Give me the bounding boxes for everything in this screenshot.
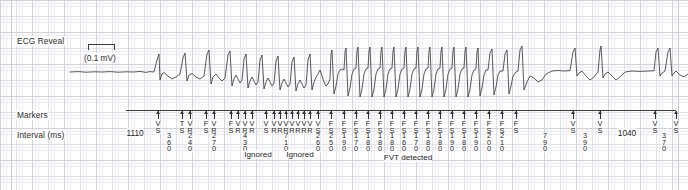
markers-row-label: Markers xyxy=(16,110,49,120)
marker-tick xyxy=(502,111,503,119)
ecg-waveform-trace xyxy=(0,24,688,104)
markers-baseline xyxy=(126,110,676,111)
marker-tick xyxy=(416,111,417,119)
marker-code: F S xyxy=(228,121,234,134)
marker-code: V S xyxy=(570,121,576,134)
marker-tick xyxy=(190,111,191,119)
marker-tick xyxy=(231,111,232,119)
annotation-note: FVT detected xyxy=(384,153,432,162)
marker-code: V S xyxy=(673,121,679,134)
marker-tick xyxy=(252,111,253,119)
marker-tick xyxy=(573,111,574,119)
marker-code: V S xyxy=(597,121,603,134)
marker-tick xyxy=(380,111,381,119)
interval-value: 1 8 0 xyxy=(377,133,383,153)
marker-tick xyxy=(182,111,183,119)
ecg-waveform-path xyxy=(70,46,688,97)
marker-code: V S xyxy=(155,121,161,134)
marker-tick xyxy=(464,111,465,119)
marker-code: F S xyxy=(203,121,209,134)
interval-value: 3 7 0 xyxy=(661,133,667,153)
interval-value: 2 7 0 xyxy=(211,133,217,153)
interval-value: 3 9 0 xyxy=(582,133,588,153)
interval-value: 1 7 0 xyxy=(353,133,359,153)
interval-value: 1 6 0 xyxy=(401,133,407,153)
marker-tick xyxy=(304,111,305,119)
interval-value: 7 9 0 xyxy=(542,133,548,153)
ecg-strip-chart: ECG Reveal Markers Interval (ms) (0.1 mV… xyxy=(0,0,688,190)
marker-tick xyxy=(310,111,311,119)
marker-tick xyxy=(344,111,345,119)
marker-tick xyxy=(245,111,246,119)
marker-tick xyxy=(280,111,281,119)
marker-tick xyxy=(331,111,332,119)
marker-tick xyxy=(266,111,267,119)
interval-value: 2 4 0 xyxy=(187,133,193,153)
marker-code: V S xyxy=(263,121,269,134)
interval-value: 1 8 0 xyxy=(461,133,467,153)
interval-value: 1110 xyxy=(126,128,143,138)
marker-tick xyxy=(158,111,159,119)
interval-value: 1 9 0 xyxy=(473,133,479,153)
marker-tick xyxy=(206,111,207,119)
marker-tick xyxy=(489,111,490,119)
marker-tick xyxy=(298,111,299,119)
marker-tick xyxy=(428,111,429,119)
marker-tick xyxy=(600,111,601,119)
marker-tick xyxy=(516,111,517,119)
marker-tick xyxy=(286,111,287,119)
marker-tick xyxy=(318,111,319,119)
marker-tick xyxy=(214,111,215,119)
marker-code: V S xyxy=(652,121,658,134)
marker-tick xyxy=(404,111,405,119)
interval-value: 3 6 0 xyxy=(166,133,172,153)
marker-code: V R xyxy=(307,121,313,134)
interval-row-label: Interval (ms) xyxy=(16,130,65,140)
annotation-note: Ignored xyxy=(286,150,313,159)
interval-value: 2 5 0 xyxy=(328,133,334,153)
marker-code: F S xyxy=(513,121,519,134)
marker-tick xyxy=(356,111,357,119)
interval-value: 1040 xyxy=(618,128,636,138)
annotation-note: Ignored xyxy=(244,150,271,159)
interval-value: 1 9 0 xyxy=(341,133,347,153)
marker-tick xyxy=(440,111,441,119)
marker-tick xyxy=(292,111,293,119)
marker-tick xyxy=(238,111,239,119)
marker-code: V R xyxy=(249,121,255,134)
marker-tick xyxy=(392,111,393,119)
marker-tick xyxy=(476,111,477,119)
interval-value: 1 7 0 xyxy=(413,133,419,153)
marker-code: T S xyxy=(179,121,185,134)
interval-value: 2 0 0 xyxy=(486,133,492,153)
interval-value: 1 8 0 xyxy=(365,133,371,153)
interval-value: 1 8 0 xyxy=(437,133,443,153)
interval-value: 1 8 0 xyxy=(425,133,431,153)
marker-tick xyxy=(274,111,275,119)
marker-code: V R xyxy=(235,121,241,134)
interval-value: 2 6 0 xyxy=(315,133,321,153)
interval-value: 1 9 0 xyxy=(449,133,455,153)
interval-value: 2 1 0 xyxy=(499,133,505,153)
marker-tick xyxy=(655,111,656,119)
marker-tick xyxy=(452,111,453,119)
marker-tick xyxy=(676,111,677,119)
marker-tick xyxy=(368,111,369,119)
interval-value: 1 8 0 xyxy=(389,133,395,153)
